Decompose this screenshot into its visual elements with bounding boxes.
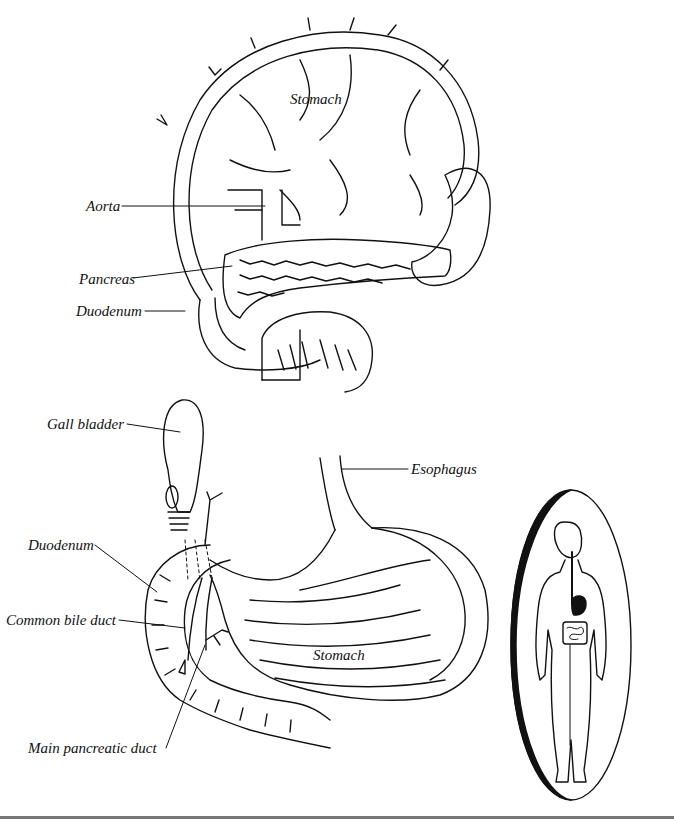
top-leader-lines	[122, 206, 265, 311]
anatomy-illustration	[0, 0, 674, 825]
label-top-duodenum: Duodenum	[76, 304, 142, 319]
top-stomach-drawing	[157, 18, 490, 392]
body-inset-icon	[511, 490, 631, 800]
label-bottom-duodenum: Duodenum	[28, 538, 94, 553]
label-main-pancreatic-duct: Main pancreatic duct	[28, 741, 157, 756]
label-esophagus: Esophagus	[411, 462, 477, 477]
label-pancreas: Pancreas	[79, 272, 135, 287]
label-common-bile-duct: Common bile duct	[6, 613, 116, 628]
bottom-rule	[0, 816, 674, 819]
label-aorta: Aorta	[86, 199, 120, 214]
label-gall-bladder: Gall bladder	[47, 417, 124, 432]
bottom-stomach-drawing	[145, 400, 488, 748]
label-bottom-stomach: Stomach	[313, 648, 365, 663]
label-top-stomach: Stomach	[290, 92, 342, 107]
